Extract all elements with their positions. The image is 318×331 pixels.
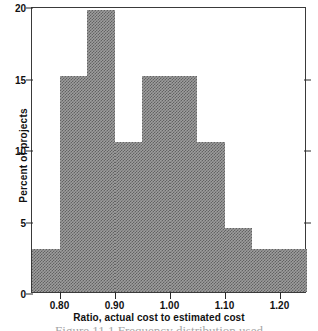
- y-tick-mark: [26, 8, 33, 9]
- plot-inner: 20151050 0.800.901.001.101.20: [32, 8, 305, 292]
- y-tick-mark-right: [304, 222, 311, 223]
- x-tick-label: 1.20: [270, 300, 289, 311]
- histogram-bar: [170, 76, 198, 292]
- histogram-bar: [280, 249, 308, 292]
- y-tick-mark: [26, 151, 33, 152]
- x-tick-mark: [280, 292, 281, 299]
- histogram-bar: [142, 76, 170, 292]
- y-tick-mark-right: [304, 151, 311, 152]
- y-tick-label: 20: [15, 3, 26, 14]
- x-tick-mark: [170, 292, 171, 299]
- bar-series: [32, 8, 305, 292]
- y-tick-mark: [26, 79, 33, 80]
- histogram-bar: [225, 228, 253, 292]
- figure-caption: Figure 11.1 Frequency distribution used: [0, 323, 318, 331]
- histogram-bar: [197, 142, 225, 292]
- x-tick-label: 1.00: [160, 300, 179, 311]
- histogram-bar: [252, 249, 280, 292]
- histogram-bar: [87, 10, 115, 292]
- x-tick-label: 0.90: [105, 300, 124, 311]
- histogram-bar: [60, 76, 88, 292]
- x-tick-label: 1.10: [215, 300, 234, 311]
- plot-area: 20151050 0.800.901.001.101.20: [31, 7, 306, 293]
- x-axis-title: Ratio, actual cost to estimated cost: [0, 312, 318, 323]
- histogram-figure: Percent of projects 20151050 0.800.901.0…: [0, 0, 318, 331]
- y-tick-mark: [26, 294, 33, 295]
- histogram-bar: [32, 249, 60, 292]
- y-tick-mark: [26, 222, 33, 223]
- y-tick-mark-right: [304, 79, 311, 80]
- histogram-bar: [115, 142, 143, 292]
- y-tick-label: 10: [15, 146, 26, 157]
- x-tick-mark: [225, 292, 226, 299]
- x-tick-mark: [115, 292, 116, 299]
- y-tick-label: 15: [15, 74, 26, 85]
- x-tick-label: 0.80: [50, 300, 69, 311]
- x-tick-mark: [60, 292, 61, 299]
